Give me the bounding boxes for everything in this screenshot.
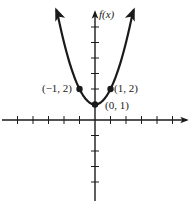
point-label-vertex: (0, 1) xyxy=(105,100,129,111)
function-graph xyxy=(0,0,189,201)
data-point xyxy=(92,101,98,107)
y-axis-label: f(x) xyxy=(99,9,114,20)
point-label-right: (1, 2) xyxy=(114,83,138,94)
data-point xyxy=(76,86,82,92)
point-label-left: (−1, 2) xyxy=(42,83,72,94)
data-point xyxy=(107,86,113,92)
